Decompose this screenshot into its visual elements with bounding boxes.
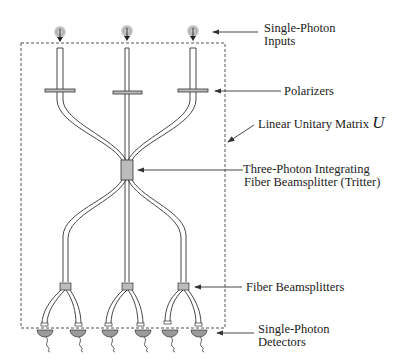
label-single-photon-inputs: Single-Photon Inputs [264,22,336,48]
label-linear-unitary-matrix: Linear Unitary Matrix U [258,116,384,131]
detector-3 [102,330,118,352]
label-tritter-line2: Fiber Beamsplitter (Tritter) [243,176,380,189]
detector-6 [191,330,207,352]
polarizer-2 [113,91,142,94]
detector-4 [135,330,151,352]
splitter-branches-2 [106,290,143,324]
detector-5 [162,330,178,352]
polarizer-1 [45,89,75,92]
label-unitary-symbol: U [372,113,384,132]
label-detectors-line2: Detectors [258,336,330,349]
fiber-beamsplitter-2 [122,283,133,290]
label-inputs-line2: Inputs [264,35,336,48]
label-single-photon-detectors: Single-Photon Detectors [258,323,330,349]
splitter-branches-1 [42,290,81,324]
fiber-3 [128,48,196,160]
label-fiber-beamsplitters: Fiber Beamsplitters [246,281,344,294]
arrow-unitary [228,125,254,142]
lower-fiber-3 [128,180,186,282]
lower-fiber-1 [63,180,126,282]
label-polarizers: Polarizers [284,85,334,98]
photon-source-1 [54,26,66,42]
detector-2 [70,330,86,352]
lower-fiber-2 [125,180,129,282]
photon-source-2 [121,25,133,41]
fiber-end-caps [41,321,202,326]
label-unitary-text: Linear Unitary Matrix [258,117,369,131]
fiber-beamsplitter-1 [60,283,71,290]
fiber-beamsplitter-3 [178,283,189,290]
fiber-1 [57,48,126,160]
photon-source-3 [187,25,199,41]
splitter-branches-3 [165,290,201,324]
tritter [121,160,133,180]
polarizer-3 [178,89,208,92]
label-tritter: Three-Photon Integrating Fiber Beamsplit… [243,163,380,189]
fiber-2 [125,48,129,160]
detector-1 [37,330,53,352]
